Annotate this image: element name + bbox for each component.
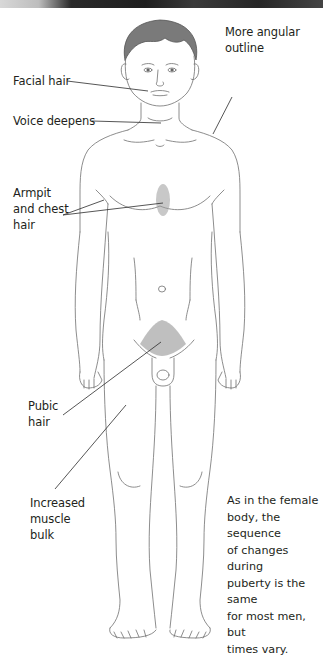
torso-outline <box>80 130 128 232</box>
leader-muscle-bulk <box>55 405 126 489</box>
label-voice-deepens: Voice deepens <box>13 113 95 129</box>
label-armpit-chest-hair: Armpit and chest hair <box>13 185 69 233</box>
leader-voice-deepens <box>92 121 161 123</box>
face-outline <box>125 56 194 106</box>
label-increased-muscle-bulk: Increased muscle bulk <box>30 495 85 543</box>
pubic-hair-patch <box>140 320 186 356</box>
leg-outline <box>104 360 120 628</box>
head-hair <box>124 20 197 60</box>
label-pubic-hair: Pubic hair <box>28 398 58 430</box>
label-more-angular-outline: More angular outline <box>225 24 300 56</box>
leader-pubic-hair <box>63 342 161 415</box>
leader-angular-outline <box>213 97 232 134</box>
caption-note: As in the female body, the sequence of c… <box>227 493 323 658</box>
label-facial-hair: Facial hair <box>13 73 70 89</box>
leader-facial-hair <box>67 81 148 91</box>
chest-hair <box>156 184 170 216</box>
